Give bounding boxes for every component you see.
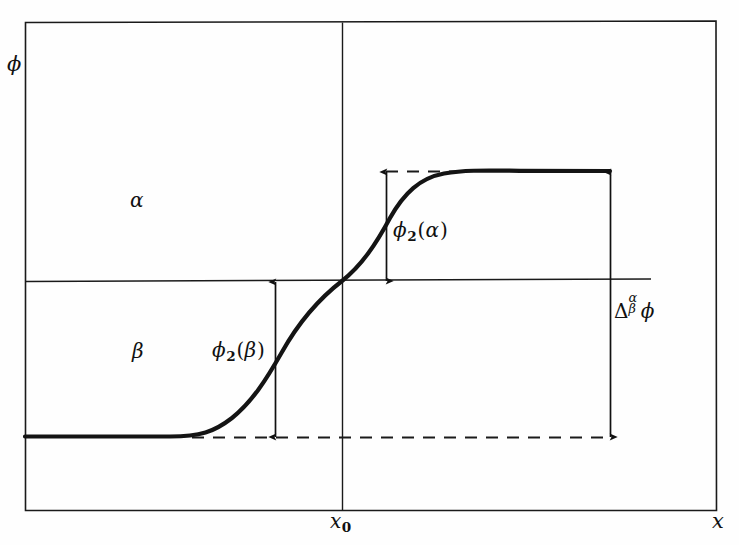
phi2-beta-subscript: 2 [226, 348, 236, 364]
delta-symbol: Δ [614, 299, 628, 323]
phi2-alpha-symbol: ϕ [393, 218, 407, 242]
phase-label-alpha: α [130, 190, 144, 210]
phi2-beta-symbol: ϕ [212, 338, 226, 362]
delta-trailing-phi: ϕ [641, 299, 655, 323]
annotation-phi2-beta: ϕ2(β) [212, 340, 265, 364]
x0-variable: x [330, 509, 341, 533]
annotation-phi2-alpha: ϕ2(α) [393, 220, 448, 244]
phase-label-beta: β [132, 341, 144, 361]
x0-tick-label: x0 [330, 511, 351, 535]
x-axis-label: x [712, 511, 724, 532]
annotation-delta-phi: Δαβϕ [614, 298, 654, 321]
phi2-alpha-close-paren: ) [439, 218, 448, 242]
x0-subscript: 0 [341, 519, 351, 535]
zero-axis-line [26, 279, 652, 282]
delta-super-sub-stack: αβ [628, 298, 640, 318]
figure-container: ϕ x α β ϕ2(β) ϕ2(α) Δαβϕ x0 [0, 0, 739, 545]
phi-profile-curve [25, 171, 610, 437]
figure-canvas [0, 0, 739, 545]
phi2-beta-close-paren: ) [256, 338, 265, 362]
phi2-alpha-argument: α [425, 218, 439, 242]
phi2-alpha-subscript: 2 [407, 228, 417, 244]
delta-subscript-beta: β [628, 303, 635, 316]
y-axis-label: ϕ [7, 54, 21, 75]
phi2-beta-argument: β [244, 338, 256, 362]
